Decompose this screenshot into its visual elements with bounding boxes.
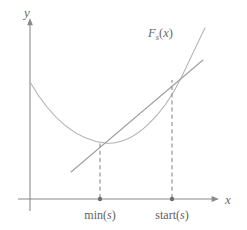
secant-line [71,60,203,172]
curve-label: Fs(x) [147,26,173,42]
curve-label-group: Fs(x) [147,26,173,42]
x-axis-group: x [18,192,231,207]
start-label-suffix: ) [185,208,189,222]
x-axis-label: x [224,192,231,207]
y-axis-group: y [22,5,33,211]
function-plot-figure: y x Fs(x) min(s) start(s) [0,0,247,230]
min-label-prefix: min( [84,208,107,222]
start-axis-dot [170,197,174,201]
curve-fs-of-x [30,28,205,143]
min-axis-dot [98,197,102,201]
min-label-suffix: ) [112,208,116,222]
curve-label-main: F [147,26,156,40]
x-tick-label-min: min(s) [84,208,115,222]
y-axis-label: y [22,5,30,20]
start-label-prefix: start( [155,208,180,222]
plot-canvas: y x Fs(x) min(s) start(s) [0,0,247,230]
x-axis-arrowhead [212,196,219,202]
x-tick-label-start: start(s) [155,208,188,222]
curve-label-argument: (x) [159,26,173,40]
